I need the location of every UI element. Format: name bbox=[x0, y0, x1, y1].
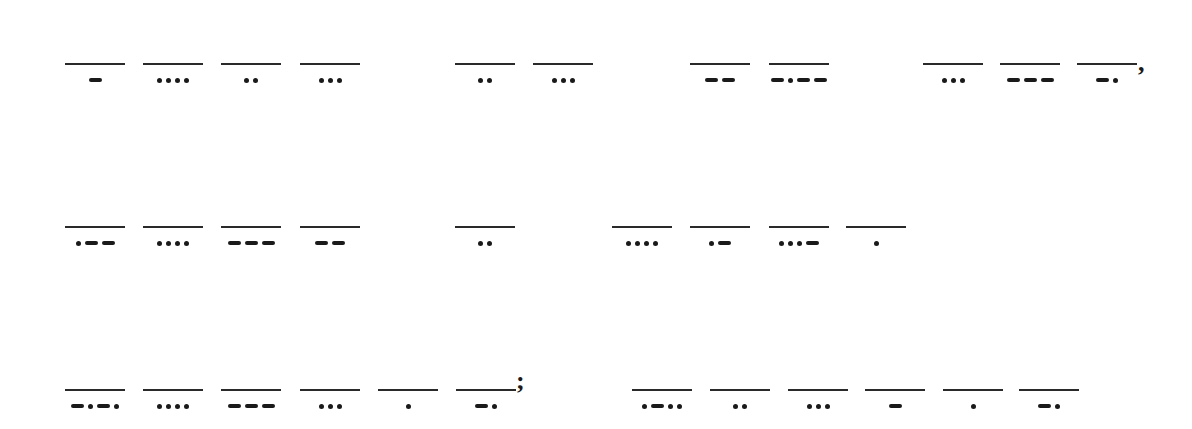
answer-line bbox=[612, 226, 672, 228]
morse-code bbox=[143, 399, 203, 413]
dot-icon bbox=[406, 404, 411, 409]
answer-line bbox=[788, 389, 848, 391]
dash-icon bbox=[722, 78, 735, 82]
answer-line bbox=[143, 389, 203, 391]
letter-blank[interactable] bbox=[788, 389, 848, 419]
dot-icon bbox=[478, 241, 483, 246]
answer-line bbox=[769, 63, 829, 65]
dot-icon bbox=[733, 404, 738, 409]
answer-line bbox=[65, 389, 125, 391]
dot-icon bbox=[184, 241, 189, 246]
letter-blank[interactable] bbox=[632, 389, 692, 419]
dot-icon bbox=[175, 404, 180, 409]
punctuation-mark: ; bbox=[516, 368, 525, 394]
letter-blank[interactable] bbox=[455, 226, 515, 256]
dash-icon bbox=[1041, 78, 1054, 82]
letter-blank[interactable] bbox=[221, 63, 281, 93]
answer-line bbox=[221, 226, 281, 228]
morse-code bbox=[943, 399, 1003, 413]
dot-icon bbox=[337, 78, 342, 83]
morse-code bbox=[632, 399, 692, 413]
dot-icon bbox=[175, 241, 180, 246]
morse-code bbox=[143, 236, 203, 250]
morse-code bbox=[1019, 399, 1079, 413]
dot-icon bbox=[788, 241, 793, 246]
letter-blank[interactable] bbox=[943, 389, 1003, 419]
letter-blank[interactable] bbox=[378, 389, 438, 419]
dot-icon bbox=[971, 404, 976, 409]
dot-icon bbox=[76, 241, 81, 246]
letter-blank[interactable] bbox=[846, 226, 906, 256]
letter-blank[interactable] bbox=[221, 226, 281, 256]
letter-blank[interactable] bbox=[455, 63, 515, 93]
answer-line bbox=[65, 226, 125, 228]
dot-icon bbox=[960, 78, 965, 83]
morse-code bbox=[221, 73, 281, 87]
dot-icon bbox=[1055, 404, 1060, 409]
letter-blank[interactable] bbox=[300, 63, 360, 93]
letter-blank[interactable] bbox=[923, 63, 983, 93]
letter-blank[interactable] bbox=[65, 63, 125, 93]
letter-blank[interactable] bbox=[710, 389, 770, 419]
letter-blank[interactable] bbox=[769, 226, 829, 256]
morse-code bbox=[300, 236, 360, 250]
dash-icon bbox=[1038, 404, 1051, 408]
letter-blank[interactable] bbox=[1077, 63, 1137, 93]
answer-line bbox=[1077, 63, 1137, 65]
letter-blank[interactable] bbox=[65, 226, 125, 256]
letter-blank[interactable] bbox=[300, 226, 360, 256]
dash-icon bbox=[718, 241, 731, 245]
dash-icon bbox=[806, 241, 819, 245]
letter-blank[interactable] bbox=[1019, 389, 1079, 419]
answer-line bbox=[456, 389, 516, 391]
dot-icon bbox=[487, 241, 492, 246]
answer-line bbox=[300, 226, 360, 228]
answer-line bbox=[710, 389, 770, 391]
dot-icon bbox=[779, 241, 784, 246]
answer-line bbox=[455, 226, 515, 228]
dash-icon bbox=[651, 404, 664, 408]
answer-line bbox=[143, 63, 203, 65]
dot-icon bbox=[492, 404, 497, 409]
dot-icon bbox=[337, 404, 342, 409]
answer-line bbox=[943, 389, 1003, 391]
morse-code bbox=[300, 399, 360, 413]
morse-code bbox=[455, 73, 515, 87]
letter-blank[interactable] bbox=[65, 389, 125, 419]
dash-icon bbox=[245, 404, 258, 408]
letter-blank[interactable] bbox=[865, 389, 925, 419]
dash-icon bbox=[797, 78, 810, 82]
letter-blank[interactable] bbox=[690, 63, 750, 93]
answer-line bbox=[632, 389, 692, 391]
letter-blank[interactable] bbox=[221, 389, 281, 419]
letter-blank[interactable] bbox=[456, 389, 516, 419]
letter-blank[interactable] bbox=[612, 226, 672, 256]
dot-icon bbox=[642, 404, 647, 409]
letter-blank[interactable] bbox=[300, 389, 360, 419]
letter-blank[interactable] bbox=[533, 63, 593, 93]
dash-icon bbox=[332, 241, 345, 245]
dot-icon bbox=[644, 241, 649, 246]
dot-icon bbox=[561, 78, 566, 83]
answer-line bbox=[65, 63, 125, 65]
letter-blank[interactable] bbox=[143, 63, 203, 93]
morse-code bbox=[769, 236, 829, 250]
dot-icon bbox=[166, 241, 171, 246]
morse-code bbox=[378, 399, 438, 413]
letter-blank[interactable] bbox=[143, 226, 203, 256]
dash-icon bbox=[228, 404, 241, 408]
letter-blank[interactable] bbox=[143, 389, 203, 419]
letter-blank[interactable] bbox=[690, 226, 750, 256]
dot-icon bbox=[709, 241, 714, 246]
answer-line bbox=[1000, 63, 1060, 65]
morse-code bbox=[533, 73, 593, 87]
dot-icon bbox=[157, 78, 162, 83]
morse-code bbox=[923, 73, 983, 87]
dot-icon bbox=[114, 404, 119, 409]
letter-blank[interactable] bbox=[1000, 63, 1060, 93]
dot-icon bbox=[816, 404, 821, 409]
dash-icon bbox=[262, 241, 275, 245]
letter-blank[interactable] bbox=[769, 63, 829, 93]
dot-icon bbox=[942, 78, 947, 83]
dot-icon bbox=[157, 404, 162, 409]
